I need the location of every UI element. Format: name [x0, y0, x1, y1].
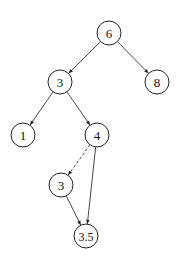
edge-n3b-to-n35 [66, 196, 80, 225]
node-label: 3.5 [79, 230, 94, 244]
edge-n6-to-n3 [69, 42, 101, 74]
node-label: 3 [57, 75, 64, 90]
tree-diagram: 6381433.5 [0, 0, 179, 258]
node-label: 1 [20, 128, 27, 143]
edge-n3-to-n4 [67, 92, 90, 125]
node-label: 6 [106, 26, 113, 41]
tree-node-n35: 3.5 [74, 224, 98, 248]
tree-node-n1: 1 [11, 123, 35, 147]
node-label: 3 [58, 178, 65, 193]
edge-n6-to-n8 [117, 42, 148, 74]
nodes-group: 6381433.5 [11, 21, 169, 248]
node-label: 8 [154, 75, 161, 90]
edge-n4-to-n35 [87, 147, 95, 224]
tree-node-n3b: 3 [49, 173, 73, 197]
tree-node-n6: 6 [97, 21, 121, 45]
tree-node-n8: 8 [145, 70, 169, 94]
edge-n4-to-n3b [68, 145, 90, 175]
tree-node-n4: 4 [85, 123, 109, 147]
node-label: 4 [94, 128, 101, 143]
tree-node-n3: 3 [48, 70, 72, 94]
edge-n3-to-n1 [30, 92, 53, 125]
